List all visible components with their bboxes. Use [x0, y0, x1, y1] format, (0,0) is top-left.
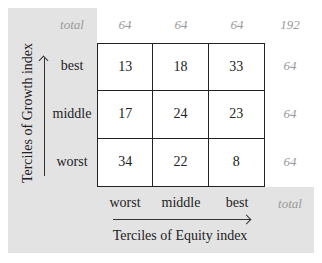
- matrix-cell: 18: [153, 44, 208, 91]
- col-total-worst: 64: [97, 17, 153, 33]
- y-axis-arrow-icon: [44, 58, 45, 176]
- row-label-middle: middle: [50, 106, 94, 122]
- row-total-worst: 64: [268, 154, 312, 170]
- row-total-middle: 64: [268, 106, 312, 122]
- bottom-total-label: total: [268, 196, 312, 212]
- y-axis-title: Terciles of Growth index: [20, 33, 36, 193]
- matrix-cell: 8: [209, 139, 264, 186]
- row-label-worst: worst: [50, 154, 94, 170]
- col-label-middle: middle: [153, 195, 209, 211]
- col-label-best: best: [209, 195, 265, 211]
- matrix-cell: 23: [209, 91, 264, 138]
- matrix-cell: 17: [98, 91, 153, 138]
- tercile-matrix: 13 18 33 17 24 23 34 22 8: [97, 43, 265, 187]
- grand-total: 192: [268, 17, 312, 33]
- col-label-worst: worst: [97, 195, 153, 211]
- matrix-cell: 33: [209, 44, 264, 91]
- row-total-best: 64: [268, 58, 312, 74]
- col-total-middle: 64: [153, 17, 209, 33]
- top-total-label: total: [50, 17, 94, 33]
- matrix-cell: 24: [153, 91, 208, 138]
- matrix-cell: 34: [98, 139, 153, 186]
- col-total-best: 64: [209, 17, 265, 33]
- matrix-cell: 22: [153, 139, 208, 186]
- row-label-best: best: [50, 58, 94, 74]
- x-axis-title: Terciles of Equity index: [100, 228, 260, 244]
- matrix-cell: 13: [98, 44, 153, 91]
- x-axis-arrow-icon: [113, 219, 250, 220]
